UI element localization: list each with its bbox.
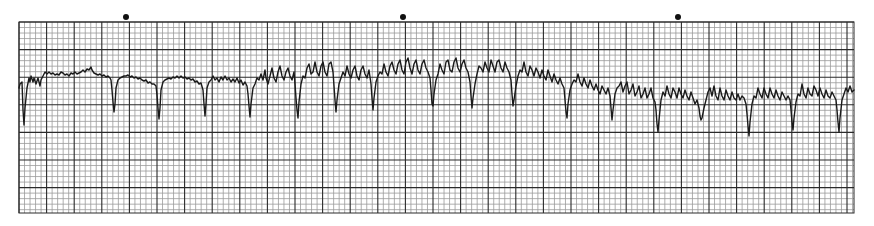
ecg-rhythm-strip: [0, 0, 874, 226]
timing-dot: [675, 14, 681, 20]
timing-dot: [123, 14, 129, 20]
strip-background: [0, 0, 874, 226]
timing-dot: [400, 14, 406, 20]
